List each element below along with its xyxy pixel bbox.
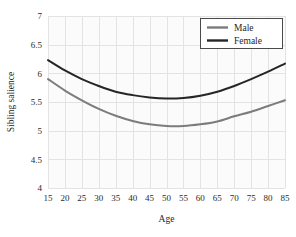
- x-tick-label-80: 80: [264, 193, 274, 203]
- y-tick-label-7: 7: [38, 11, 43, 21]
- chart-legend[interactable]: MaleFemale: [201, 19, 283, 49]
- y-tick-label-4.5: 4.5: [31, 155, 43, 165]
- x-tick-label-60: 60: [196, 193, 206, 203]
- chart-figure: 152025303540455055606570758085 44.555.56…: [0, 0, 296, 237]
- x-tick-label-75: 75: [247, 193, 257, 203]
- y-axis-title: Sibling salience: [6, 72, 16, 132]
- y-tick-label-5.5: 5.5: [31, 97, 43, 107]
- x-tick-label-25: 25: [77, 193, 87, 203]
- legend-label-male: Male: [234, 23, 254, 33]
- x-tick-label-40: 40: [128, 193, 138, 203]
- y-tick-label-6.5: 6.5: [31, 40, 43, 50]
- x-tick-label-15: 15: [44, 193, 54, 203]
- x-tick-label-35: 35: [111, 193, 121, 203]
- y-axis-tick-labels: 44.555.566.57: [31, 11, 43, 193]
- x-tick-label-85: 85: [281, 193, 291, 203]
- x-tick-label-45: 45: [145, 193, 155, 203]
- y-tick-label-4: 4: [38, 183, 43, 193]
- y-tick-label-6: 6: [38, 69, 43, 79]
- x-tick-label-20: 20: [60, 193, 70, 203]
- chart-svg: 152025303540455055606570758085 44.555.56…: [0, 0, 296, 237]
- x-axis-title: Age: [159, 214, 175, 224]
- x-axis-tick-labels: 152025303540455055606570758085: [44, 193, 291, 203]
- y-tick-label-5: 5: [38, 126, 43, 136]
- x-tick-label-50: 50: [162, 193, 172, 203]
- x-tick-label-70: 70: [230, 193, 240, 203]
- legend-label-female: Female: [234, 36, 262, 46]
- x-tick-label-55: 55: [179, 193, 189, 203]
- x-tick-label-65: 65: [213, 193, 223, 203]
- x-tick-label-30: 30: [94, 193, 104, 203]
